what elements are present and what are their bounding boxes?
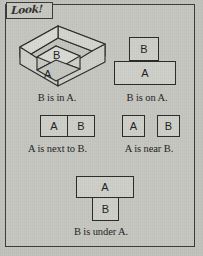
box-label-a: A [101, 182, 108, 193]
iso-label-b: B [53, 49, 60, 61]
page-root: Look! A [0, 0, 203, 256]
box-label-b: B [77, 121, 84, 132]
iso-label-a: A [44, 68, 51, 80]
caption-a-next-to-b: A is next to B. [10, 143, 105, 154]
box-label-b: B [165, 121, 172, 132]
caption-b-in-a: B is in A. [12, 92, 102, 103]
caption-b-under-a: B is under A. [44, 226, 158, 237]
box-label-a: A [50, 121, 57, 132]
look-tab: Look! [6, 2, 53, 19]
box-a-next-to: A [40, 115, 68, 137]
box-b-under-bottom: B [92, 197, 119, 221]
box-label-a: A [130, 121, 137, 132]
box-b-on-a-bottom: A [114, 61, 176, 85]
look-tab-label: Look! [11, 2, 43, 16]
box-b-near: B [157, 115, 180, 137]
box-label-a: A [141, 68, 148, 79]
box-a-near: A [122, 115, 145, 137]
box-label-b: B [102, 204, 109, 215]
box-label-b: B [140, 44, 147, 55]
box-b-next-to: B [67, 115, 95, 137]
caption-a-near-b: A is near B. [107, 143, 191, 154]
box-a-under-top: A [76, 176, 134, 198]
caption-b-on-a: B is on A. [104, 92, 190, 103]
box-b-on-a-top: B [129, 37, 159, 61]
figure-b-in-a: A B [14, 24, 109, 90]
isometric-box-drawing [14, 24, 109, 90]
